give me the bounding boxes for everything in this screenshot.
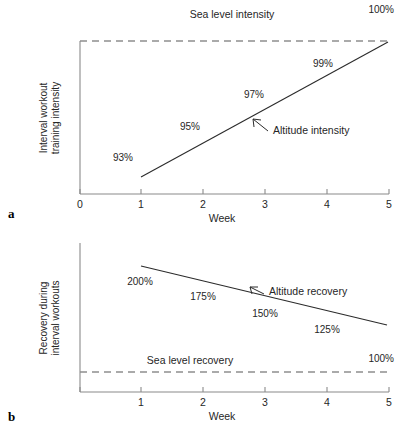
panel-a-letter: a (8, 206, 15, 221)
panel-a-label-100: 100% (368, 4, 394, 15)
panel-b-y-axis-title-line1: Recovery during (38, 282, 49, 355)
panel-b-xtick-label-4: 4 (324, 396, 330, 408)
panel-b-letter: b (8, 409, 15, 424)
panel-a-y-axis-title-line1: Interval workout (38, 82, 49, 153)
panel-a-x-axis-title: Week (209, 212, 236, 224)
panel-a-point-label-99: 99% (313, 58, 333, 69)
panel-a-altitude-intensity-annotation: Altitude intensity (253, 119, 350, 136)
panel-b-point-label-175: 175% (190, 291, 216, 302)
panel-a: Sea level intensity 100% 0 1 2 3 (8, 4, 394, 224)
panel-a-point-label-97: 97% (244, 89, 264, 100)
panel-a-altitude-intensity-label: Altitude intensity (273, 124, 350, 136)
panel-b: 1 2 3 4 5 Week Recovery during interval … (8, 243, 394, 424)
panel-b-x-axis-title: Week (209, 410, 236, 422)
panel-b-point-label-200: 200% (127, 276, 153, 287)
panel-b-point-label-125: 125% (314, 324, 340, 335)
panel-b-xtick-label-1: 1 (138, 396, 144, 408)
panel-a-sea-level-title: Sea level intensity (190, 8, 275, 20)
panel-b-x-ticks (80, 387, 389, 392)
panel-a-point-label-95: 95% (180, 121, 200, 132)
figure-container: Sea level intensity 100% 0 1 2 3 (0, 0, 418, 434)
panel-b-xtick-label-5: 5 (386, 396, 392, 408)
panel-a-altitude-intensity-line (141, 42, 388, 177)
panel-a-xtick-label-0: 0 (77, 198, 83, 210)
panel-a-annotation-arrow-shaft (253, 119, 268, 131)
panel-a-xtick-label-2: 2 (200, 198, 206, 210)
panel-a-y-axis-title-line2: training intensity (50, 82, 61, 154)
panel-b-altitude-recovery-label: Altitude recovery (269, 285, 348, 297)
panel-a-xtick-label-5: 5 (386, 198, 392, 210)
panel-b-xtick-label-3: 3 (262, 396, 268, 408)
two-panel-line-chart: Sea level intensity 100% 0 1 2 3 (0, 0, 418, 434)
panel-a-xtick-label-4: 4 (324, 198, 330, 210)
panel-a-x-ticks (80, 189, 389, 194)
panel-b-y-axis-title-line2: interval workouts (50, 280, 61, 355)
panel-a-xtick-label-1: 1 (138, 198, 144, 210)
panel-b-sea-level-recovery-label: Sea level recovery (147, 354, 234, 366)
panel-a-point-label-93: 93% (113, 152, 133, 163)
panel-b-label-100: 100% (368, 353, 394, 364)
panel-b-xtick-label-2: 2 (200, 396, 206, 408)
panel-a-xtick-label-3: 3 (262, 198, 268, 210)
panel-b-point-label-150: 150% (252, 308, 278, 319)
